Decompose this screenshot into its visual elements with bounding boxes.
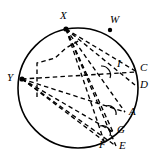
point-dot-w [108,28,112,32]
geometry-canvas [0,0,158,163]
point-label-c: C [140,62,147,73]
point-label-x: X [60,10,67,21]
angle-marks [100,66,116,136]
vertex-dot-x [63,26,68,31]
chords-from-x [66,29,137,146]
chord-y-g [22,79,113,132]
point-label-e: E [119,140,126,151]
geometry-figure: X Y W C D A G E F I [0,0,158,163]
point-label-a: A [129,106,136,117]
point-label-d: D [140,79,148,90]
point-label-y: Y [7,72,13,83]
construction-path [37,40,80,97]
point-label-i: I [117,58,121,69]
zigzag-polyline [37,40,80,97]
point-label-w: W [110,14,119,25]
point-label-g: G [117,124,125,135]
point-label-f: F [99,139,106,150]
angle-mark-i [101,66,111,78]
chord-x-d [66,29,135,85]
vertex-dot-y [19,76,24,81]
